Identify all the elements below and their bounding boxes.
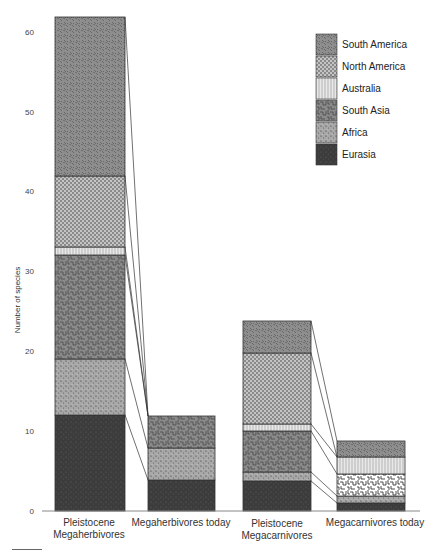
x-label-line: Pleistocene bbox=[251, 518, 303, 529]
stacked-bar-chart: Number of species 0 10 20 30 40 50 60 bbox=[0, 0, 432, 555]
x-label-line: Megaherbivores bbox=[53, 529, 125, 540]
y-tick: 20 bbox=[25, 347, 34, 356]
y-tick: 50 bbox=[25, 108, 34, 117]
y-tick: 60 bbox=[25, 28, 34, 37]
legend-label: North America bbox=[342, 61, 406, 72]
x-label-line: Megaherbivores today bbox=[132, 517, 231, 528]
y-tick: 10 bbox=[25, 427, 34, 436]
legend-label: South Asia bbox=[342, 105, 390, 116]
bar-pleistocene-megaherbivores bbox=[55, 17, 125, 511]
bar-megacarnivores-today bbox=[337, 441, 405, 511]
footer-rule bbox=[12, 549, 42, 550]
y-tick: 30 bbox=[25, 267, 34, 276]
legend-label: Australia bbox=[342, 83, 381, 94]
bar-pleistocene-megacarnivores bbox=[243, 321, 311, 511]
x-label-line: Pleistocene bbox=[63, 517, 115, 528]
legend-label: Eurasia bbox=[342, 149, 376, 160]
legend-label: South America bbox=[342, 39, 407, 50]
y-axis-ticks: 0 10 20 30 40 50 60 bbox=[25, 28, 34, 516]
legend-label: Africa bbox=[342, 127, 368, 138]
y-tick: 0 bbox=[30, 507, 35, 516]
x-label-line: Megacarnivores bbox=[241, 530, 312, 541]
x-axis-labels: Pleistocene Megaherbivores Megaherbivore… bbox=[53, 517, 424, 541]
legend bbox=[316, 34, 337, 165]
y-tick: 40 bbox=[25, 187, 34, 196]
legend-labels: South America North America Australia So… bbox=[342, 39, 407, 160]
x-label-line: Megacarnivores today bbox=[326, 517, 424, 528]
y-axis-label: Number of species bbox=[13, 267, 22, 334]
bar-megaherbivores-today bbox=[148, 416, 215, 511]
